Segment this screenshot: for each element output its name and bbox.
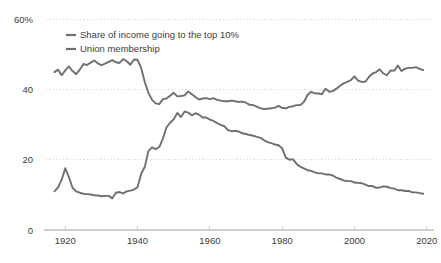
- series-line-1: [54, 111, 423, 198]
- y-tick-label-60: 60%: [14, 14, 34, 25]
- x-tick-label-1960: 1960: [199, 235, 220, 246]
- x-axis-tick-labels: 192019401960198020002020: [55, 235, 438, 246]
- x-tick-label-1940: 1940: [127, 235, 148, 246]
- line-chart: 0204060% 192019401960198020002020 Share …: [0, 0, 441, 263]
- y-tick-label-40: 40: [22, 84, 33, 95]
- x-tick-label-1980: 1980: [272, 235, 293, 246]
- legend-label-1[interactable]: Union membership: [80, 43, 160, 54]
- y-axis-tick-labels: 0204060%: [14, 14, 34, 236]
- y-tick-label-0: 0: [28, 225, 33, 236]
- x-tick-label-1920: 1920: [55, 235, 76, 246]
- y-tick-label-20: 20: [22, 154, 33, 165]
- series-line-0: [54, 59, 423, 109]
- data-series-group: [54, 59, 423, 198]
- x-tick-label-2000: 2000: [344, 235, 365, 246]
- chart-container: 0204060% 192019401960198020002020 Share …: [0, 0, 441, 263]
- legend-label-0[interactable]: Share of income going to the top 10%: [80, 29, 240, 40]
- x-axis: [44, 226, 434, 230]
- chart-legend: Share of income going to the top 10%Unio…: [66, 29, 240, 54]
- gridlines: [46, 19, 434, 160]
- x-tick-label-2020: 2020: [416, 235, 437, 246]
